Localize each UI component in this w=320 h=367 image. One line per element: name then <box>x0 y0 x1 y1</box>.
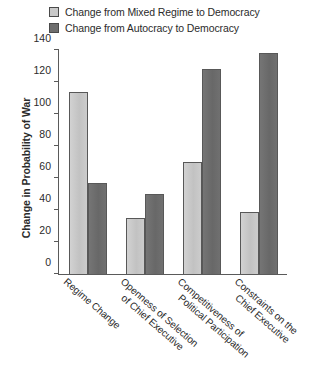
legend-label-mixed-regime: Change from Mixed Regime to Democracy <box>65 6 260 18</box>
legend-swatch-light-gray-icon <box>49 7 59 17</box>
bar <box>88 183 107 274</box>
y-axis-title: Change in Probability of War <box>20 73 32 263</box>
plot-area: 020406080100120140 <box>58 50 287 275</box>
y-axis-tick-label: 80 <box>39 128 51 140</box>
bar-group <box>183 50 221 274</box>
legend-item-autocracy: Change from Autocracy to Democracy <box>49 20 299 35</box>
y-axis-tick-label: 60 <box>39 160 51 172</box>
bar <box>202 69 221 274</box>
y-axis-tick-label: 140 <box>33 32 51 44</box>
x-axis-label: Regime Change <box>61 276 122 331</box>
bar <box>183 162 202 274</box>
y-axis-tick-label: 100 <box>33 96 51 108</box>
y-axis-tick-label: 120 <box>33 64 51 76</box>
x-axis-label-line: Regime Change <box>61 276 122 331</box>
bar-group <box>126 50 164 274</box>
bar <box>145 194 164 274</box>
chart-legend: Change from Mixed Regime to Democracy Ch… <box>49 4 299 36</box>
legend-label-autocracy: Change from Autocracy to Democracy <box>65 22 239 34</box>
y-axis-tick-label: 0 <box>45 256 51 268</box>
legend-swatch-dark-gray-icon <box>49 23 59 33</box>
bar <box>259 53 278 274</box>
bar-group <box>240 50 278 274</box>
bar-group <box>69 50 107 274</box>
bar <box>69 92 88 274</box>
bar <box>126 218 145 274</box>
bar-groups <box>59 50 287 274</box>
legend-item-mixed-regime: Change from Mixed Regime to Democracy <box>49 4 299 19</box>
x-axis-labels: Regime ChangeOpenness of Selectionof Chi… <box>58 276 286 366</box>
y-axis-tick-label: 20 <box>39 224 51 236</box>
bar <box>240 212 259 274</box>
y-axis-tick-label: 40 <box>39 192 51 204</box>
